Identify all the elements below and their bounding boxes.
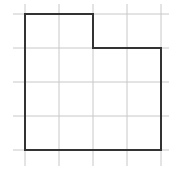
- grid-diagram: [0, 0, 169, 176]
- grid-lines: [13, 4, 169, 166]
